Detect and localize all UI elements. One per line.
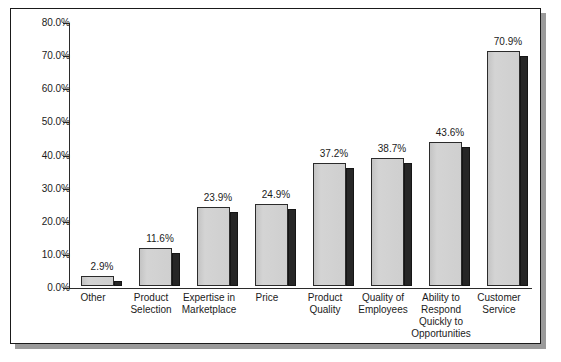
y-axis-tick-label: 20.0%: [22, 217, 70, 227]
y-axis-tick-label: 10.0%: [22, 250, 70, 260]
y-axis-tick-label: 80.0%: [22, 18, 70, 28]
x-axis-category-label: Quality ofEmployees: [351, 292, 415, 316]
x-axis-category-label-line: Marketplace: [177, 304, 241, 316]
bar-front-face: [429, 142, 462, 286]
y-axis-tick: 20.0%: [11, 222, 70, 223]
x-axis-category-label-line: Other: [61, 292, 125, 304]
x-axis-line: [69, 288, 532, 289]
bar-value-label: 11.6%: [131, 233, 189, 245]
bar-shape: [139, 248, 180, 286]
x-axis-category-label-line: Product: [119, 292, 183, 304]
bar-shape: [197, 207, 238, 286]
x-axis-category-label-line: Respond: [409, 304, 473, 316]
bar-value-label: 37.2%: [305, 148, 363, 160]
x-axis-category-label: Ability toRespondQuickly toOpportunities: [409, 292, 473, 340]
bar-side-face: [520, 56, 528, 286]
bar-value-label: 70.9%: [479, 36, 537, 48]
bar-item: 43.6%: [421, 142, 479, 286]
x-axis-category-label-line: Selection: [119, 304, 183, 316]
bar-front-face: [81, 276, 114, 286]
bar-shape: [255, 204, 296, 286]
bar-value-label: 38.7%: [363, 143, 421, 155]
y-axis-tick: 40.0%: [11, 156, 70, 157]
x-axis-category-label: Other: [61, 292, 125, 304]
bar-side-face: [462, 147, 470, 286]
y-axis-tick-label: 30.0%: [22, 184, 70, 194]
x-axis-category-label-line: Quality: [293, 304, 357, 316]
bar-shape: [313, 163, 354, 286]
x-axis-category-label-line: Quickly to: [409, 316, 473, 328]
bar-value-label: 24.9%: [247, 189, 305, 201]
plot-area: 0.0%10.0%20.0%30.0%40.0%50.0%60.0%70.0%8…: [11, 9, 540, 343]
bar-shape: [81, 276, 122, 286]
bar-side-face: [404, 163, 412, 286]
bar-item: 24.9%: [247, 204, 305, 286]
bar-side-face: [288, 209, 296, 286]
y-axis-tick: 70.0%: [11, 56, 70, 57]
bar-front-face: [139, 248, 172, 286]
x-axis-category-label: ProductQuality: [293, 292, 357, 316]
chart-panel: 0.0%10.0%20.0%30.0%40.0%50.0%60.0%70.0%8…: [10, 8, 541, 344]
bar-item: 70.9%: [479, 51, 537, 286]
y-axis-tick-label: 70.0%: [22, 51, 70, 61]
bar-value-label: 23.9%: [189, 192, 247, 204]
x-axis-category-label: Price: [235, 292, 299, 304]
bar-side-face: [172, 253, 180, 286]
x-axis-category-label-line: Customer: [467, 292, 531, 304]
x-axis-category-label-line: Price: [235, 292, 299, 304]
bar-front-face: [255, 204, 288, 286]
y-axis-tick: 30.0%: [11, 189, 70, 190]
x-axis-category-label-line: Quality of: [351, 292, 415, 304]
bar-item: 37.2%: [305, 163, 363, 286]
x-axis-category-label: Expertise inMarketplace: [177, 292, 241, 316]
x-axis-category-label-line: Expertise in: [177, 292, 241, 304]
x-axis-category-label-line: Ability to: [409, 292, 473, 304]
y-axis-tick: 60.0%: [11, 89, 70, 90]
y-axis-tick: 80.0%: [11, 23, 70, 24]
bar-side-face: [346, 168, 354, 286]
y-axis-tick: 10.0%: [11, 255, 70, 256]
bar-item: 38.7%: [363, 158, 421, 286]
bar-shape: [429, 142, 470, 286]
bar-front-face: [313, 163, 346, 286]
y-axis-tick-label: 60.0%: [22, 84, 70, 94]
bar-side-face: [230, 212, 238, 286]
x-axis-category-label: CustomerService: [467, 292, 531, 316]
y-axis-tick-label: 50.0%: [22, 117, 70, 127]
x-axis-category-label-line: Employees: [351, 304, 415, 316]
bar-front-face: [371, 158, 404, 286]
y-axis-tick-label: 40.0%: [22, 151, 70, 161]
bar-shape: [487, 51, 528, 286]
x-axis-category-label-line: Opportunities: [409, 328, 473, 340]
y-axis-line: [69, 23, 70, 289]
bar-shape: [371, 158, 412, 286]
bar-item: 11.6%: [131, 248, 189, 286]
bar-front-face: [197, 207, 230, 286]
y-axis-tick: 50.0%: [11, 122, 70, 123]
bar-side-face: [114, 281, 122, 286]
bar-item: 23.9%: [189, 207, 247, 286]
bar-item: 2.9%: [73, 276, 131, 286]
x-axis-category-label-line: Product: [293, 292, 357, 304]
bar-front-face: [487, 51, 520, 286]
x-axis-category-label-line: Service: [467, 304, 531, 316]
bar-value-label: 43.6%: [421, 127, 479, 139]
y-axis-tick: 0.0%: [11, 288, 70, 289]
bar-value-label: 2.9%: [73, 261, 131, 273]
x-axis-category-label: ProductSelection: [119, 292, 183, 316]
